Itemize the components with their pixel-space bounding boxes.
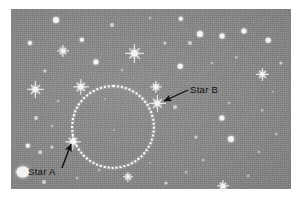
star-point bbox=[266, 38, 271, 43]
star-point bbox=[51, 125, 54, 128]
star-field-figure: Star A Star B bbox=[0, 0, 302, 202]
star-point bbox=[220, 34, 225, 39]
label-star-a: Star A bbox=[28, 166, 56, 177]
star-point bbox=[178, 64, 183, 69]
star-field-plate bbox=[11, 9, 291, 189]
dotted-circle-annotation bbox=[71, 85, 155, 169]
star-point bbox=[34, 116, 38, 120]
star-point bbox=[53, 17, 59, 23]
star-point bbox=[98, 169, 101, 172]
star-point bbox=[197, 31, 203, 37]
star-point bbox=[38, 150, 42, 154]
star-point bbox=[261, 109, 264, 112]
star-point bbox=[149, 17, 152, 20]
star-point bbox=[28, 41, 32, 45]
star-point bbox=[121, 69, 124, 72]
star-point bbox=[235, 56, 238, 59]
vignette-overlay bbox=[11, 9, 291, 189]
star-point bbox=[258, 151, 261, 154]
star-point bbox=[110, 23, 114, 27]
star-point bbox=[173, 105, 177, 109]
star-point bbox=[247, 175, 250, 178]
star-point bbox=[57, 100, 60, 103]
star-point bbox=[228, 136, 234, 142]
star-point bbox=[211, 62, 214, 65]
film-grain-texture bbox=[11, 9, 291, 189]
label-star-b: Star B bbox=[190, 84, 218, 95]
star-point bbox=[275, 133, 278, 136]
star-point bbox=[42, 180, 46, 184]
star-point bbox=[228, 102, 231, 105]
star-point bbox=[202, 159, 205, 162]
star-point bbox=[185, 171, 188, 174]
star-point bbox=[76, 177, 79, 180]
